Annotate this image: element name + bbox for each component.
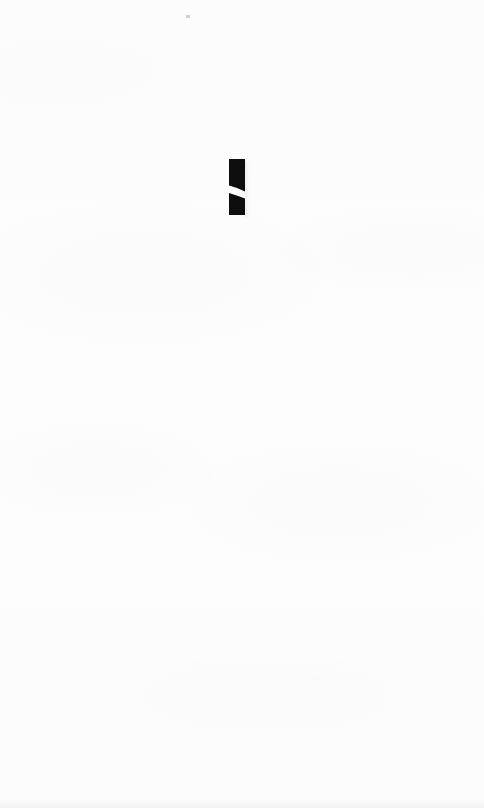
- logo-print-shadow: [245, 161, 248, 217]
- paper-texture: [0, 0, 484, 808]
- scan-edge-shadow: [0, 798, 484, 808]
- scan-speck: [186, 15, 190, 18]
- logo-lower-block: [229, 193, 245, 215]
- scanned-page: [0, 0, 484, 808]
- logo-upper-block: [229, 159, 245, 192]
- slashed-bar-icon: [229, 159, 245, 215]
- publisher-logo-mark: [229, 159, 245, 215]
